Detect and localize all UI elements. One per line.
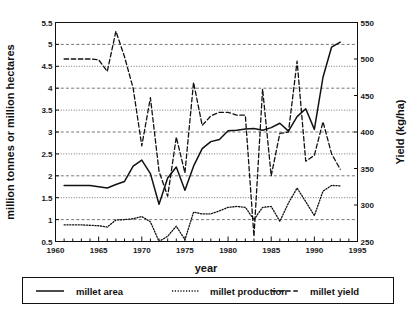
x-tick-label: 1985: [262, 246, 280, 255]
y-tick-label: 3: [48, 128, 53, 137]
y-tick-label: 2.5: [41, 150, 53, 159]
x-tick-label: 1970: [133, 246, 151, 255]
y2-tick-label: 450: [361, 92, 375, 101]
x-tick-label: 1990: [305, 246, 323, 255]
y-tick-label: 5.5: [41, 19, 53, 28]
x-tick-label: 1995: [349, 246, 367, 255]
legend-label-millet-area: millet area: [76, 286, 124, 297]
x-tick-label: 1975: [176, 246, 194, 255]
y-tick-label: 1: [48, 216, 53, 225]
chart-figure: 0.511.522.533.544.555.5 2503003504004505…: [0, 0, 416, 315]
millet-area-production-yield-chart: 0.511.522.533.544.555.5 2503003504004505…: [0, 0, 416, 315]
x-axis-title: year: [195, 262, 218, 274]
x-tick-label: 1980: [219, 246, 237, 255]
y2-tick-label: 550: [361, 19, 375, 28]
y-axis-right-title: Yield (kg/ha): [394, 99, 406, 164]
y-tick-label: 2: [48, 172, 53, 181]
legend-label-millet-yield: millet yield: [310, 286, 359, 297]
x-tick-label: 1965: [90, 246, 108, 255]
y2-tick-label: 500: [361, 55, 375, 64]
y-tick-label: 1.5: [41, 194, 53, 203]
y2-tick-label: 400: [361, 128, 375, 137]
y2-tick-label: 300: [361, 201, 375, 210]
chart-legend: millet areamillet productionmillet yield: [23, 278, 394, 304]
y2-tick-label: 350: [361, 165, 375, 174]
y-tick-label: 3.5: [41, 106, 53, 115]
y-tick-label: 4: [48, 84, 53, 93]
y-tick-label: 4.5: [41, 62, 53, 71]
y-tick-label: 5: [48, 40, 53, 49]
x-tick-label: 1960: [47, 246, 65, 255]
y-axis-left-title: million tonnes or million hectares: [4, 44, 16, 219]
